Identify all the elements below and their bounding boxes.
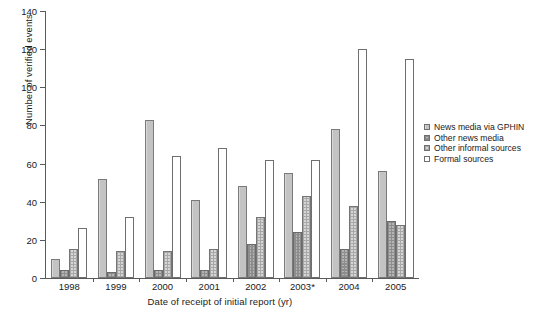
- x-tick-label: 1999: [93, 281, 140, 292]
- chart-figure: Number of verified events 02040608010012…: [0, 0, 554, 315]
- bar: [218, 148, 227, 278]
- y-tick-label: 40: [26, 196, 37, 207]
- legend-item: News media via GPHIN: [424, 122, 524, 133]
- bar-groups: 199819992000200120022003*20042005: [46, 11, 419, 278]
- bar-group: 2003*: [279, 11, 326, 278]
- x-tick-label: 2004: [326, 281, 373, 292]
- bar: [302, 196, 311, 278]
- bar: [256, 217, 265, 278]
- y-tick-mark: [40, 240, 45, 241]
- y-tick-mark: [40, 164, 45, 165]
- bar: [247, 244, 256, 278]
- legend-label: Formal sources: [434, 154, 493, 165]
- bar: [378, 171, 387, 278]
- bar: [293, 232, 302, 278]
- legend-label: Other news media: [434, 133, 504, 144]
- legend-item: Formal sources: [424, 154, 524, 165]
- bar-group: 1999: [93, 11, 140, 278]
- x-tick-label: 2002: [233, 281, 280, 292]
- bar: [125, 217, 134, 278]
- bar: [78, 228, 87, 278]
- x-tick-label: 2003*: [279, 281, 326, 292]
- y-tick-label: 20: [26, 234, 37, 245]
- legend-swatch-icon: [424, 156, 430, 162]
- legend-label: Other informal sources: [434, 143, 521, 154]
- legend-swatch-icon: [424, 135, 430, 141]
- bar-group: 2001: [186, 11, 233, 278]
- x-axis-title: Date of receipt of initial report (yr): [0, 296, 440, 307]
- x-tick-label: 1998: [46, 281, 93, 292]
- legend-swatch-icon: [424, 145, 430, 151]
- y-tick-label: 0: [32, 273, 37, 284]
- bar: [163, 251, 172, 278]
- bar-group: 2002: [233, 11, 280, 278]
- bar: [209, 249, 218, 278]
- bar-group: 2004: [326, 11, 373, 278]
- y-tick-mark: [40, 87, 45, 88]
- bar: [265, 160, 274, 278]
- bar-group: 1998: [46, 11, 93, 278]
- bar: [200, 270, 209, 278]
- bar: [349, 206, 358, 278]
- bar: [284, 173, 293, 278]
- y-tick-label: 140: [21, 6, 37, 17]
- bar: [69, 249, 78, 278]
- bar: [405, 59, 414, 278]
- y-tick-mark: [40, 11, 45, 12]
- legend-item: Other news media: [424, 133, 524, 144]
- bar: [98, 179, 107, 278]
- legend-label: News media via GPHIN: [434, 122, 524, 133]
- y-tick-mark: [40, 49, 45, 50]
- bar: [51, 259, 60, 278]
- bar: [154, 270, 163, 278]
- x-tick-label: 2001: [186, 281, 233, 292]
- bar-group: 2000: [139, 11, 186, 278]
- y-axis-title: Number of verified events: [23, 0, 34, 160]
- chart-legend: News media via GPHINOther news mediaOthe…: [424, 122, 524, 164]
- bar: [145, 120, 154, 278]
- bar: [311, 160, 320, 278]
- bar: [172, 156, 181, 278]
- y-tick-label: 60: [26, 158, 37, 169]
- bar: [331, 129, 340, 278]
- legend-item: Other informal sources: [424, 143, 524, 154]
- y-tick-mark: [40, 125, 45, 126]
- bar: [60, 270, 69, 278]
- bar: [191, 200, 200, 278]
- bar: [396, 225, 405, 278]
- bar: [107, 272, 116, 278]
- bar: [116, 251, 125, 278]
- bar: [387, 221, 396, 278]
- y-tick-mark: [40, 202, 45, 203]
- legend-swatch-icon: [424, 124, 430, 130]
- y-tick-label: 120: [21, 44, 37, 55]
- bar: [238, 186, 247, 278]
- y-tick-mark: [40, 278, 45, 279]
- bar: [358, 49, 367, 278]
- y-tick-label: 80: [26, 120, 37, 131]
- y-tick-label: 100: [21, 82, 37, 93]
- x-tick-label: 2000: [139, 281, 186, 292]
- x-tick-label: 2005: [372, 281, 419, 292]
- plot-area: 020406080100120140 199819992000200120022…: [45, 11, 419, 278]
- bar-group: 2005: [372, 11, 419, 278]
- bar: [340, 249, 349, 278]
